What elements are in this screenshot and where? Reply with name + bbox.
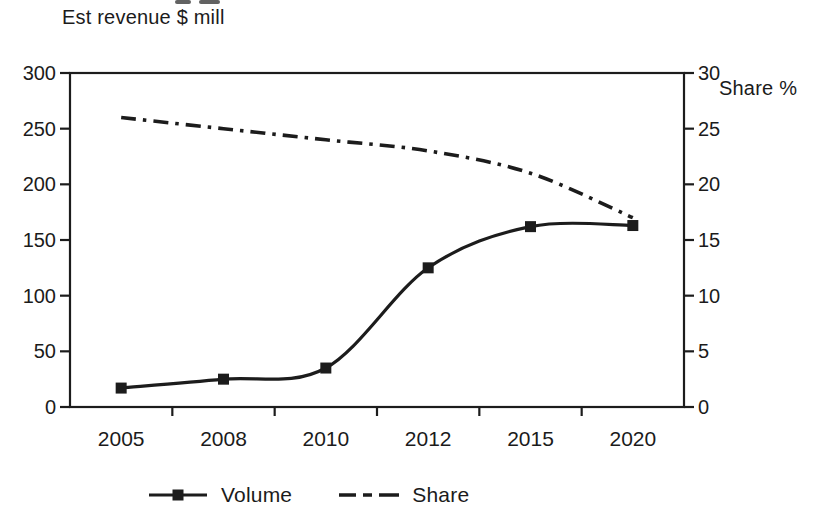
volume-data-marker — [525, 221, 536, 232]
x-axis-category-label: 2015 — [507, 427, 554, 450]
left-axis-tick-label: 150 — [23, 229, 56, 251]
right-axis-tick-label: 25 — [698, 118, 720, 140]
left-axis-tick-label: 50 — [34, 340, 56, 362]
right-axis-tick-label: 15 — [698, 229, 720, 251]
volume-line — [121, 223, 633, 388]
share-line — [121, 118, 633, 218]
legend-item-volume: Volume — [148, 483, 292, 507]
legend: Volume Share — [148, 483, 469, 507]
left-axis-tick-label: 200 — [23, 173, 56, 195]
volume-data-marker — [218, 374, 229, 385]
legend-label-volume: Volume — [221, 483, 292, 507]
volume-legend-marker — [173, 490, 184, 501]
right-axis-tick-label: 30 — [698, 62, 720, 84]
left-axis-tick-label: 250 — [23, 118, 56, 140]
chart-figure: Est revenue $ mill 050100150200250300051… — [0, 0, 823, 525]
chart-canvas: 0501001502002503000510152025302005200820… — [0, 0, 823, 525]
right-axis-title: Share % — [719, 77, 797, 100]
x-axis-category-label: 2012 — [405, 427, 452, 450]
left-axis-tick-label: 0 — [45, 396, 56, 418]
volume-data-marker — [423, 262, 434, 273]
x-axis-category-label: 2010 — [302, 427, 349, 450]
volume-legend-swatch — [148, 487, 208, 503]
right-axis-tick-label: 0 — [698, 396, 709, 418]
right-axis-tick-label: 10 — [698, 285, 720, 307]
right-axis-tick-label: 5 — [698, 340, 709, 362]
share-legend-swatch — [339, 487, 399, 503]
volume-data-marker — [116, 383, 127, 394]
x-axis-category-label: 2005 — [98, 427, 145, 450]
left-axis-tick-label: 300 — [23, 62, 56, 84]
x-axis-category-label: 2020 — [609, 427, 656, 450]
legend-label-share: Share — [412, 483, 469, 507]
volume-data-marker — [320, 363, 331, 374]
volume-data-marker — [627, 220, 638, 231]
legend-item-share: Share — [339, 483, 469, 507]
x-axis-category-label: 2008 — [200, 427, 247, 450]
right-axis-tick-label: 20 — [698, 173, 720, 195]
left-axis-tick-label: 100 — [23, 285, 56, 307]
